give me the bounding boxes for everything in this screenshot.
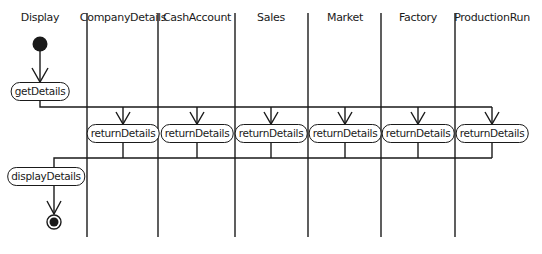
lane-header-market: Market bbox=[327, 11, 363, 24]
activity-return-details-company: returnDetails bbox=[87, 124, 160, 143]
lane-header-production-run: ProductionRun bbox=[454, 11, 530, 24]
activity-return-details-factory: returnDetails bbox=[382, 124, 455, 143]
initial-node-icon bbox=[33, 37, 48, 52]
join-lines bbox=[54, 141, 492, 167]
activity-get-details: getDetails bbox=[11, 82, 70, 101]
activity-return-details-production: returnDetails bbox=[456, 124, 529, 143]
join-bar bbox=[54, 158, 492, 167]
activity-display-details: displayDetails bbox=[7, 167, 85, 186]
lane-header-cash-account: CashAccount bbox=[163, 11, 231, 24]
activity-return-details-sales: returnDetails bbox=[235, 124, 308, 143]
lane-header-factory: Factory bbox=[399, 11, 437, 24]
activity-return-details-cash: returnDetails bbox=[161, 124, 234, 143]
lane-header-sales: Sales bbox=[257, 11, 285, 24]
fork-bar bbox=[40, 100, 492, 107]
activity-return-details-market: returnDetails bbox=[309, 124, 382, 143]
lane-header-display: Display bbox=[21, 11, 59, 24]
lane-header-company-details: CompanyDetails bbox=[80, 11, 166, 24]
